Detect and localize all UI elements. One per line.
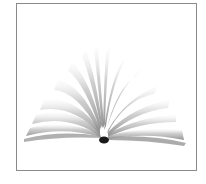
book-spine — [99, 137, 109, 144]
book-pages — [24, 46, 186, 146]
open-book-illustration — [0, 0, 206, 184]
